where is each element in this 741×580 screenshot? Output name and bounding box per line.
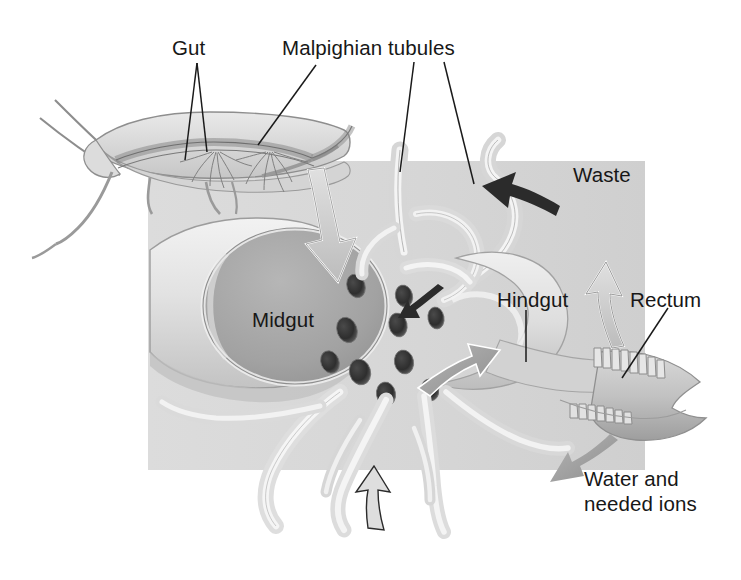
label-hindgut: Hindgut <box>497 288 568 312</box>
label-gut: Gut <box>172 36 205 60</box>
label-waste: Waste <box>573 163 631 187</box>
label-malpighian-tubules: Malpighian tubules <box>282 36 455 60</box>
lower-tubule-arrow <box>356 466 390 530</box>
label-water-and-ions-line1: Water and <box>584 467 679 491</box>
label-rectum: Rectum <box>630 288 701 312</box>
label-water-and-ions-line2: needed ions <box>584 492 697 516</box>
insect-excretory-system-figure: Gut Malpighian tubules Waste Hindgut Rec… <box>0 0 741 580</box>
label-midgut: Midgut <box>252 308 314 332</box>
